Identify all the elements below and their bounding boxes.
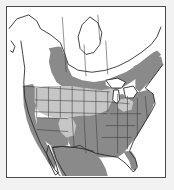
north-america-map: [7, 7, 165, 177]
distribution-map-figure: [0, 0, 174, 190]
map-frame: [6, 6, 166, 178]
